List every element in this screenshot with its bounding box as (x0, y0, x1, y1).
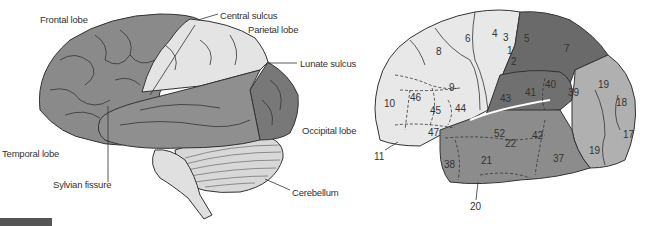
area-22-label: 22 (505, 138, 517, 149)
area-4-label: 4 (492, 28, 498, 39)
area-19-lower-label: 19 (589, 145, 601, 156)
area-38-label: 38 (444, 159, 456, 170)
area-3-label: 3 (503, 32, 509, 43)
area-1-label: 1 (507, 45, 513, 56)
area-21-label: 21 (481, 155, 493, 166)
area-37-label: 37 (553, 153, 565, 164)
area-39-label: 39 (568, 87, 580, 98)
area-46-label: 46 (410, 92, 422, 103)
area-40-label: 40 (545, 79, 557, 90)
area-2-label: 2 (511, 56, 517, 67)
area-8-label: 8 (436, 46, 442, 57)
parietal-lobe-label: Parietal lobe (248, 24, 298, 35)
area-7-label: 7 (564, 43, 570, 54)
area-5-label: 5 (524, 33, 530, 44)
area-17-label: 17 (623, 129, 635, 140)
cerebellum-label: Cerebellum (292, 187, 339, 198)
area-19-upper-label: 19 (598, 79, 610, 90)
lunate-sulcus-label: Lunate sulcus (300, 58, 356, 69)
area-45-label: 45 (430, 105, 442, 116)
temporal-lobe-label: Temporal lobe (2, 148, 59, 159)
frontal-lobe-label: Frontal lobe (40, 14, 88, 25)
area-47-label: 47 (428, 127, 440, 138)
area-42-label: 42 (532, 130, 544, 141)
occipital-lobe-label: Occipital lobe (302, 125, 356, 136)
figure-caption-bar (0, 218, 52, 226)
area-9-label: 9 (449, 82, 455, 93)
area-52-label: 52 (494, 128, 506, 139)
area-18-label: 18 (616, 97, 628, 108)
area-44-label: 44 (455, 103, 467, 114)
area-11-label: 11 (374, 151, 385, 162)
region-occipital (572, 55, 636, 168)
area-6-label: 6 (465, 33, 471, 44)
area-41-label: 41 (525, 87, 537, 98)
area-10-label: 10 (384, 98, 396, 109)
central-sulcus-label: Central sulcus (220, 10, 277, 21)
area-43-label: 43 (500, 93, 512, 104)
sylvian-fissure-label: Sylvian fissure (53, 179, 111, 190)
area-20-label: 20 (470, 201, 482, 212)
